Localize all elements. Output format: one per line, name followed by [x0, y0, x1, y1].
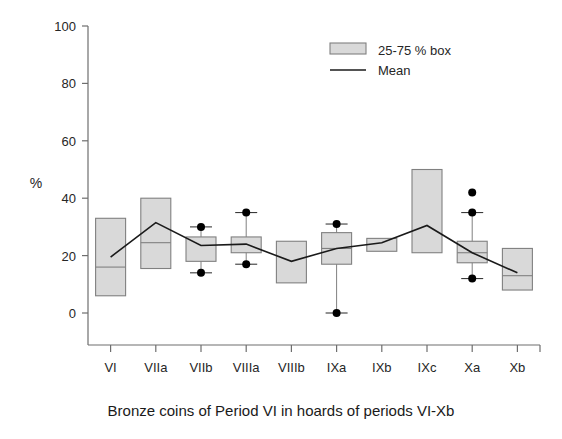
- x-tick-label-VIIIb: VIIIb: [278, 360, 305, 375]
- y-tick-label: 60: [62, 134, 76, 149]
- legend-label-box: 25-75 % box: [378, 43, 451, 58]
- box-IXb: [367, 238, 397, 251]
- y-tick-label: 40: [62, 191, 76, 206]
- y-tick-label: 0: [69, 306, 76, 321]
- y-tick-label: 20: [62, 249, 76, 264]
- legend-box-swatch: [330, 43, 366, 54]
- x-tick-label-IXb: IXb: [372, 360, 392, 375]
- box-Xb: [502, 248, 532, 290]
- outlier-point-VIIb: [197, 223, 205, 231]
- y-axis-title-text: %: [30, 175, 42, 191]
- chart-caption-text: Bronze coins of Period VI in hoards of p…: [108, 402, 455, 419]
- boxplot-svg: 020406080100%VIVIIaVIIbVIIIaVIIIbIXaIXbI…: [0, 0, 562, 439]
- outlier-point-VIIb: [197, 269, 205, 277]
- x-tick-label-IXc: IXc: [418, 360, 437, 375]
- x-tick-label-VIIIa: VIIIa: [233, 360, 261, 375]
- outlier-point-VIIIa: [242, 260, 250, 268]
- outlier-point-Xa: [468, 209, 476, 217]
- box-VIIa: [141, 198, 171, 268]
- outlier-point-IXa: [333, 220, 341, 228]
- outlier-point-Xa: [468, 188, 476, 196]
- x-tick-label-Xa: Xa: [464, 360, 481, 375]
- y-tick-label: 100: [54, 19, 76, 34]
- outlier-point-IXa: [333, 309, 341, 317]
- outlier-point-VIIIa: [242, 209, 250, 217]
- x-tick-label-IXa: IXa: [327, 360, 347, 375]
- outlier-point-Xa: [468, 275, 476, 283]
- y-tick-label: 80: [62, 76, 76, 91]
- x-tick-label-VI: VI: [104, 360, 116, 375]
- box-IXc: [412, 170, 442, 253]
- x-tick-label-Xb: Xb: [509, 360, 525, 375]
- mean-line-series: [111, 223, 518, 273]
- x-tick-label-VIIa: VIIa: [144, 360, 168, 375]
- chart-figure: 020406080100%VIVIIaVIIbVIIIaVIIIbIXaIXbI…: [0, 0, 562, 439]
- legend-label-mean: Mean: [378, 63, 411, 78]
- x-tick-label-VIIb: VIIb: [189, 360, 212, 375]
